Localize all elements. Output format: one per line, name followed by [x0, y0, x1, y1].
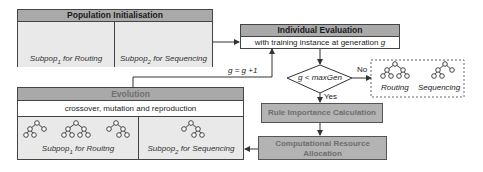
tree-icon: [182, 121, 205, 138]
evolution-trees: [0, 0, 483, 172]
tree-icon: [24, 121, 47, 138]
tree-icon: [62, 121, 91, 138]
tree-icon: [107, 121, 130, 138]
